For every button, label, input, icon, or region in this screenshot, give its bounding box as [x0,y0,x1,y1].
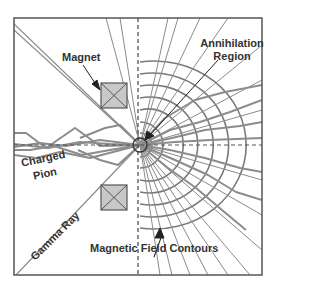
label-magnet: Magnet [62,51,101,63]
magnet-bottom [101,185,127,210]
label-annihilation-line2: Region [197,50,267,62]
label-annihilation-line1: Annihilation [197,37,267,49]
magnet-top [101,83,127,108]
label-field-contours: Magnetic Field Contours [90,242,218,254]
